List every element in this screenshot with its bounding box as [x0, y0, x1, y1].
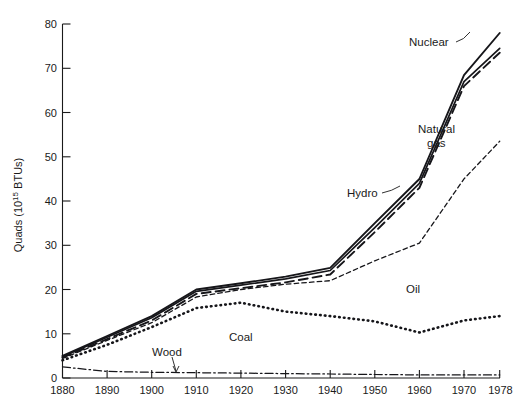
series-label-wood: Wood: [152, 346, 182, 358]
chart-background: [0, 0, 528, 418]
x-tick-label: 1940: [318, 384, 342, 396]
energy-consumption-chart: 0 10 20 30 40 50 60 70 80 1880 1890 1900…: [0, 0, 528, 418]
x-tick-label: 1890: [95, 384, 119, 396]
y-tick-label: 50: [45, 151, 57, 163]
chart-svg: 0 10 20 30 40 50 60 70 80 1880 1890 1900…: [0, 0, 528, 418]
y-tick-label: 70: [45, 62, 57, 74]
series-label-natural-gas-line2: gas: [427, 137, 446, 149]
x-tick-label: 1910: [184, 384, 208, 396]
x-tick-label: 1970: [452, 384, 476, 396]
y-axis-title: Quads (1015 BTUs): [11, 158, 24, 253]
x-tick-label: 1978: [488, 384, 512, 396]
series-label-nuclear: Nuclear: [409, 36, 449, 48]
y-axis-title-tail: BTUs): [12, 158, 24, 192]
series-label-coal: Coal: [229, 331, 253, 343]
x-tick-label: 1920: [229, 384, 253, 396]
svg-text:Quads (1015 BTUs): Quads (1015 BTUs): [11, 158, 24, 253]
x-tick-label: 1880: [50, 384, 74, 396]
x-tick-label: 1900: [139, 384, 163, 396]
series-label-hydro: Hydro: [347, 187, 378, 199]
y-tick-label: 20: [45, 284, 57, 296]
y-tick-label: 30: [45, 239, 57, 251]
x-tick-label: 1930: [273, 384, 297, 396]
series-label-oil: Oil: [406, 283, 420, 295]
y-tick-label: 0: [51, 372, 57, 384]
y-tick-label: 10: [45, 328, 57, 340]
x-tick-label: 1960: [407, 384, 431, 396]
y-tick-label: 40: [45, 195, 57, 207]
y-tick-label: 60: [45, 107, 57, 119]
series-label-natural-gas-line1: Natural: [418, 123, 455, 135]
x-tick-label: 1950: [363, 384, 387, 396]
y-tick-labels: 0 10 20 30 40 50 60 70 80: [45, 18, 57, 384]
y-tick-label: 80: [45, 18, 57, 30]
y-axis-title-base: Quads (10: [12, 201, 24, 252]
